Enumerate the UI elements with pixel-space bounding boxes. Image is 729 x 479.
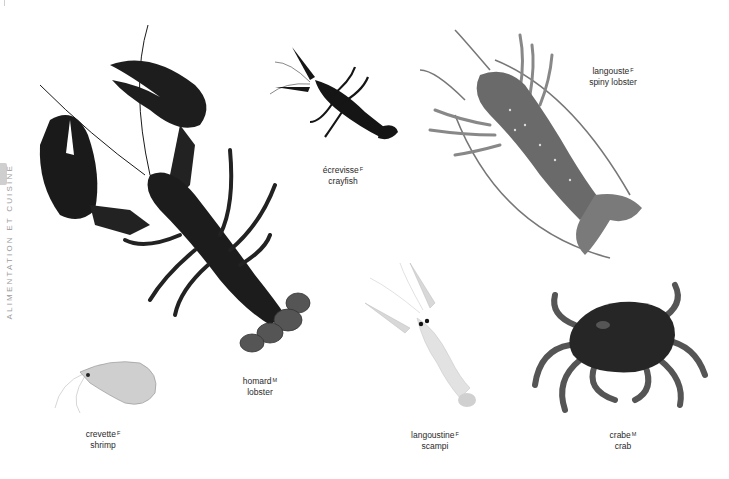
label-lobster: homardM lobster	[232, 376, 288, 397]
gender-mark: F	[630, 67, 633, 73]
gender-mark: F	[360, 166, 363, 172]
label-crab: crabeM crab	[601, 430, 645, 451]
label-fr: langouste	[592, 66, 629, 76]
label-scampi: langoustineF scampi	[398, 430, 472, 451]
section-title: ALIMENTATION ET CUISINE	[5, 170, 14, 320]
label-spiny-lobster: langousteF spiny lobster	[580, 66, 646, 87]
label-en: spiny lobster	[580, 77, 646, 88]
label-en: crab	[601, 441, 645, 452]
crayfish-illustration	[270, 42, 405, 152]
scampi-illustration	[355, 258, 500, 413]
gender-mark: M	[273, 377, 278, 383]
shrimp-illustration	[50, 358, 162, 416]
gender-mark: F	[456, 431, 459, 437]
label-fr: écrevisse	[323, 165, 359, 175]
label-fr: homard	[243, 376, 272, 386]
gender-mark: M	[632, 431, 637, 437]
label-fr: crabe	[610, 430, 631, 440]
gender-mark: F	[117, 430, 120, 436]
crab-illustration	[525, 280, 715, 415]
label-en: crayfish	[313, 176, 373, 187]
label-shrimp: crevetteF shrimp	[78, 429, 128, 450]
label-en: shrimp	[78, 440, 128, 451]
label-fr: langoustine	[411, 430, 454, 440]
label-fr: crevette	[86, 429, 116, 439]
label-en: lobster	[232, 387, 288, 398]
page-edge-mark	[4, 0, 5, 6]
label-en: scampi	[398, 441, 472, 452]
label-crayfish: écrevisseF crayfish	[313, 165, 373, 186]
